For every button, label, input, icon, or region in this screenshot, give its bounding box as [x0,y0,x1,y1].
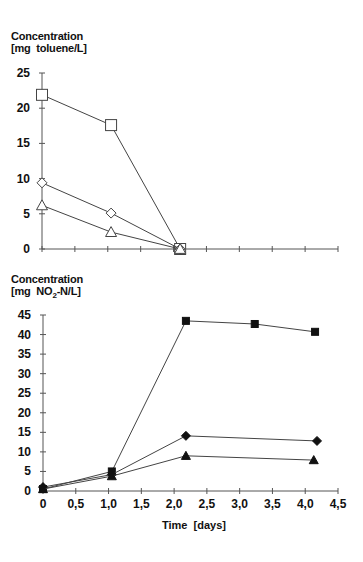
data-point-triangle-filled [181,451,190,459]
data-point-square-open [37,89,48,100]
y-tick-label: 10 [18,445,32,459]
y-tick-label: 0 [24,484,31,498]
y-tick-label: 30 [18,367,32,381]
x-tick-label: 4,0 [297,497,314,511]
series-line-filled-triangle [43,456,314,489]
y-tick-label: 45 [18,308,32,322]
x-tick-label: 4,5 [330,497,347,511]
x-tick-label: 1,5 [133,497,150,511]
x-tick-label: 1,0 [100,497,117,511]
x-tick-label: 0 [40,497,47,511]
data-point-square-filled [182,317,189,324]
data-point-diamond-open [106,208,116,218]
y-tick-label: 5 [23,207,30,221]
charts-canvas: 051015202505101520253035404500,51,01,52,… [0,0,363,562]
data-point-square-filled [251,320,258,327]
x-tick-label: 2,5 [199,497,216,511]
x-tick-label: 2,0 [166,497,183,511]
top-chart: 0510152025 [17,66,338,256]
y-tick-label: 0 [23,242,30,256]
y-tick-label: 10 [17,172,31,186]
y-tick-label: 20 [17,101,31,115]
data-point-diamond-filled [181,431,190,440]
y-tick-label: 15 [17,136,31,150]
y-tick-label: 25 [18,386,32,400]
y-tick-label: 5 [24,464,31,478]
x-tick-label: 0,5 [67,497,84,511]
y-tick-label: 20 [18,406,32,420]
data-point-square-filled [312,328,319,335]
data-point-diamond-filled [313,436,322,445]
x-tick-label: 3,5 [264,497,281,511]
series-line-filled-square [43,321,315,489]
y-tick-label: 15 [18,425,32,439]
data-point-triangle-open [106,227,117,237]
x-tick-label: 3,0 [231,497,248,511]
data-point-diamond-open [37,178,47,188]
bottom-chart: 05101520253035404500,51,01,52,02,53,03,5… [18,308,347,511]
y-tick-label: 40 [18,328,32,342]
y-tick-label: 35 [18,347,32,361]
data-point-triangle-open [37,200,48,210]
series-line-filled-diamond [43,436,317,487]
y-tick-label: 25 [17,66,31,80]
data-point-square-open [106,120,117,131]
